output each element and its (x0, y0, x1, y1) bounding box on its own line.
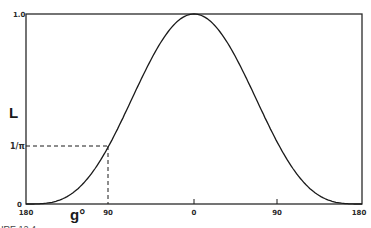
x-tick-label: 180 (352, 209, 367, 217)
phase-curve-chart: 1.0 1/π 0 L 180 90 0 90 180 g° FIGURE 12… (0, 0, 371, 228)
y-tick-label-bottom: 0 (17, 201, 22, 209)
x-axis-label: g° (70, 206, 85, 223)
y-tick-label-top: 1.0 (13, 11, 26, 19)
y-axis-label: L (9, 104, 18, 121)
data-curve (26, 14, 362, 204)
plot-frame (26, 14, 362, 204)
figure-caption: FIGURE 12.4 (0, 224, 36, 228)
x-tick-label: 180 (19, 209, 34, 217)
y-tick-label-mid: 1/π (10, 142, 25, 151)
x-tick-label: 0 (192, 209, 197, 217)
x-tick-label: 90 (272, 209, 282, 217)
x-tick-label: 90 (103, 209, 113, 217)
